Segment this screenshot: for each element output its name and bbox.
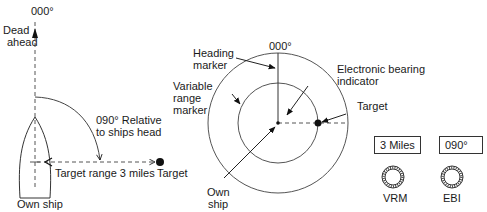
- vrm-knob-icon[interactable]: [382, 166, 404, 188]
- target-dot: [156, 158, 164, 166]
- heading-marker-label-2: marker: [193, 59, 227, 71]
- vrm-leader: [232, 94, 240, 104]
- left-target-label: Target: [157, 167, 188, 179]
- own-ship-dot: [276, 121, 280, 125]
- radar-own-ship-label-1: Own: [207, 186, 230, 198]
- vrm-label-2: range: [173, 92, 201, 104]
- vrm-label-3: marker: [173, 104, 207, 116]
- own-ship-leader: [224, 127, 275, 178]
- relative-bearing-arc: [35, 97, 100, 160]
- radar-display: [208, 53, 348, 193]
- vrm-knob-label: VRM: [383, 192, 407, 204]
- radar-target-dot: [315, 120, 322, 127]
- heading-marker-label-1: Heading: [193, 47, 234, 59]
- radar-own-ship-label-2: ship: [208, 198, 228, 210]
- ebi-label-1: Electronic bearing: [337, 63, 425, 75]
- dead-ahead-label-1: Dead: [3, 24, 29, 36]
- ebi-readout: 090°: [439, 136, 483, 154]
- ebi-label-2: indicator: [337, 75, 379, 87]
- left-bearing-label: 000°: [31, 5, 54, 17]
- radar-target-label: Target: [357, 100, 388, 112]
- ebi-knob-label: EBI: [443, 192, 461, 204]
- radar-bearing-label: 000°: [269, 40, 292, 52]
- vrm-label-1: Variable: [173, 80, 213, 92]
- relative-bearing-label-1: 090° Relative: [96, 114, 162, 126]
- dead-ahead-label-2: ahead: [7, 36, 38, 48]
- range-label: Target range 3 miles: [55, 167, 155, 179]
- diagram-canvas: [0, 0, 487, 212]
- ebi-knob-icon[interactable]: [441, 166, 463, 188]
- ebi-leader: [287, 86, 308, 115]
- relative-bearing-label-2: to ships head: [96, 126, 161, 138]
- vrm-readout: 3 Miles: [374, 136, 421, 154]
- own-ship-label: Own ship: [17, 198, 63, 210]
- target-leader: [322, 114, 346, 122]
